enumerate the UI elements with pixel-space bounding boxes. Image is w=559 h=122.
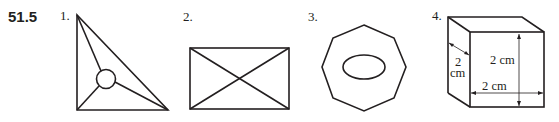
ellipse-shape bbox=[343, 55, 385, 79]
arrowhead-icon bbox=[517, 101, 521, 106]
arrowhead-icon bbox=[464, 51, 469, 55]
cube-top-left-edge bbox=[448, 17, 470, 32]
figures-canvas: 1. 2. 3. 4. 2 cm 2 cm bbox=[0, 0, 559, 122]
figure-1-label: 1. bbox=[60, 8, 70, 23]
depth-unit: cm bbox=[450, 66, 466, 80]
figure-4-label: 4. bbox=[432, 8, 442, 23]
cube-bottom-left-edge bbox=[448, 93, 470, 107]
width-label: 2 cm bbox=[482, 79, 507, 93]
figure-1: 1. bbox=[60, 8, 168, 110]
arrowhead-icon bbox=[471, 91, 476, 95]
figure-3: 3. bbox=[308, 9, 406, 111]
octagon-shape bbox=[322, 25, 406, 111]
line-top-to-circle bbox=[77, 15, 101, 71]
arrowhead-icon bbox=[449, 43, 454, 47]
inner-circle bbox=[97, 70, 116, 89]
arrowhead-icon bbox=[538, 91, 543, 95]
figure-4: 4. 2 cm 2 cm 2 cm bbox=[432, 8, 544, 107]
figure-2: 2. bbox=[183, 9, 289, 109]
line-bottom-left-to-circle bbox=[77, 86, 99, 110]
figure-3-label: 3. bbox=[308, 9, 318, 24]
height-label: 2 cm bbox=[490, 53, 515, 67]
figure-2-label: 2. bbox=[183, 9, 193, 24]
arrowhead-icon bbox=[517, 34, 521, 39]
line-bottom-right-to-circle bbox=[115, 82, 168, 110]
cube-front-face bbox=[470, 32, 544, 107]
